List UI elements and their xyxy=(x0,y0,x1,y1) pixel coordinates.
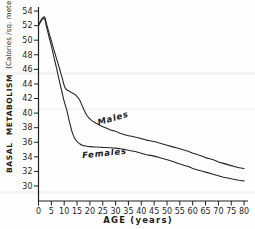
x-tick-label: 65 xyxy=(200,207,210,216)
y-tick-label: 42 xyxy=(22,94,32,103)
basal-metabolism-vs-age-chart: 3032343638404244464850525405101520253035… xyxy=(0,0,255,229)
x-tick-label: 5 xyxy=(49,207,54,216)
females-curve xyxy=(39,18,245,181)
x-tick-label: 15 xyxy=(72,207,82,216)
y-tick-label: 40 xyxy=(22,109,32,118)
x-tick-label: 10 xyxy=(59,207,69,216)
y-tick-label: 52 xyxy=(22,21,32,30)
x-tick-label: 75 xyxy=(226,207,236,216)
y-tick-label: 34 xyxy=(22,153,32,162)
y-tick-label: 38 xyxy=(22,123,32,132)
y-tick-label: 46 xyxy=(22,65,32,74)
y-tick-label: 48 xyxy=(22,51,32,60)
y-axis-title-main: BASAL METABOLISM xyxy=(5,74,14,173)
y-tick-label: 54 xyxy=(22,7,32,16)
x-axis-title: AGE (years) xyxy=(88,215,188,225)
y-tick-label: 50 xyxy=(22,36,32,45)
y-tick-label: 44 xyxy=(22,80,32,89)
x-tick-label: 70 xyxy=(213,207,223,216)
y-axis-title-units: (Calories /sq. meter/hour') xyxy=(5,0,13,69)
y-tick-label: 30 xyxy=(22,182,32,191)
y-tick-label: 32 xyxy=(22,167,32,176)
x-tick-label: 60 xyxy=(188,207,198,216)
x-tick-label: 0 xyxy=(36,207,41,216)
y-axis-title: BASAL METABOLISM (Calories /sq. meter/ho… xyxy=(3,6,15,173)
y-tick-label: 36 xyxy=(22,138,32,147)
males-curve xyxy=(39,17,245,169)
x-tick-label: 80 xyxy=(239,207,249,216)
axes-lines xyxy=(39,7,249,201)
